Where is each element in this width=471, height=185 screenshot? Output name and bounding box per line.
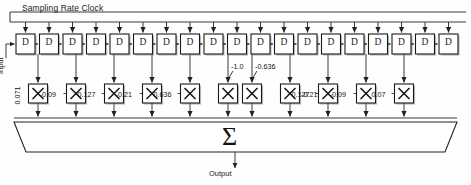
coefficient-label-8: 0.127	[292, 90, 310, 99]
coefficient-label-9: -0.09	[330, 90, 346, 99]
diagram-wires	[0, 0, 471, 185]
input-label: Input	[0, 57, 4, 74]
coefficient-label-0: 0.071	[13, 87, 22, 105]
coefficient-label-1: -0.09	[40, 90, 56, 99]
coefficient-label-10: 0.07	[372, 90, 386, 99]
coefficient-label-3: -0.21	[116, 90, 132, 99]
fir-filter-diagram: Sampling Rate Clock Input Output Σ 0.071…	[0, 0, 471, 185]
coefficient-label-6: -0.636	[255, 62, 275, 71]
output-label: Output	[209, 170, 232, 178]
coefficient-label-4: 0.636	[154, 90, 172, 99]
sampling-rate-clock-label: Sampling Rate Clock	[22, 4, 103, 13]
coefficient-label-5: -1.0	[231, 62, 243, 71]
delay-label-18: D	[435, 38, 463, 48]
summation-symbol: Σ	[222, 124, 237, 150]
coefficient-label-2: 0.127	[78, 90, 96, 99]
